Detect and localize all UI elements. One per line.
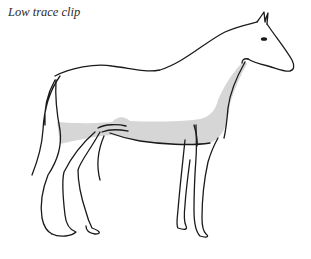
head-outline bbox=[248, 24, 294, 71]
near-hind-leg bbox=[78, 132, 100, 234]
ear-outline bbox=[257, 12, 268, 24]
clipped-area-shading bbox=[57, 60, 247, 144]
hindquarter-outline bbox=[41, 80, 60, 234]
back-outline bbox=[55, 22, 257, 76]
far-front-leg bbox=[177, 140, 190, 229]
eye bbox=[262, 38, 267, 40]
hind-leg-inner bbox=[98, 136, 104, 180]
horse-illustration bbox=[0, 0, 311, 259]
